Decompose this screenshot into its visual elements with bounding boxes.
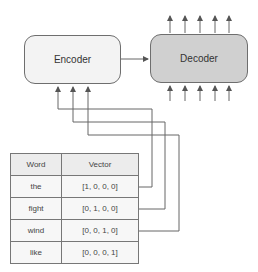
word-cell: like: [11, 242, 62, 264]
decoder-label: Decoder: [180, 53, 218, 64]
column-header-vector: Vector: [62, 154, 139, 176]
word-cell: fight: [11, 198, 62, 220]
column-header-word: Word: [11, 154, 62, 176]
vector-cell: [1, 0, 0, 0]: [62, 176, 139, 198]
table-header-row: Word Vector: [11, 154, 139, 176]
word-cell: wind: [11, 220, 62, 242]
vector-cell: [0, 0, 0, 1]: [62, 242, 139, 264]
encoder-label: Encoder: [54, 54, 91, 65]
word-cell: the: [11, 176, 62, 198]
one-hot-vocabulary-table: Word Vector the [1, 0, 0, 0] fight [0, 1…: [10, 153, 139, 264]
table-row: like [0, 0, 0, 1]: [11, 242, 139, 264]
table-row: fight [0, 1, 0, 0]: [11, 198, 139, 220]
vector-cell: [0, 1, 0, 0]: [62, 198, 139, 220]
decoder-block: Decoder: [150, 34, 248, 83]
vector-cell: [0, 0, 1, 0]: [62, 220, 139, 242]
table-row: wind [0, 0, 1, 0]: [11, 220, 139, 242]
encoder-block: Encoder: [24, 35, 121, 84]
table-row: the [1, 0, 0, 0]: [11, 176, 139, 198]
